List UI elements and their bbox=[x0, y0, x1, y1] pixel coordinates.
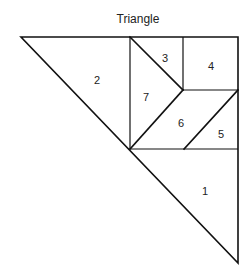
edge-piece-5-6 bbox=[184, 90, 238, 149]
tangram-triangle-diagram: Triangle 1 2 3 4 5 6 7 bbox=[0, 0, 249, 272]
piece-label-2: 2 bbox=[94, 74, 100, 86]
piece-label-1: 1 bbox=[202, 185, 208, 197]
piece-label-3: 3 bbox=[162, 52, 168, 64]
piece-label-6: 6 bbox=[178, 117, 184, 129]
piece-label-7: 7 bbox=[143, 91, 149, 103]
diagram-title: Triangle bbox=[117, 12, 160, 26]
piece-label-5: 5 bbox=[218, 128, 224, 140]
edge-piece-3-7 bbox=[130, 37, 183, 90]
piece-label-4: 4 bbox=[208, 60, 214, 72]
edge-piece-6-7 bbox=[130, 90, 183, 149]
